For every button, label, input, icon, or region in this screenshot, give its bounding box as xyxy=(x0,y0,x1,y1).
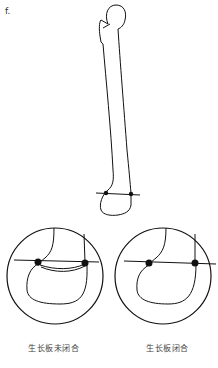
growth-plate-line xyxy=(96,193,140,195)
caption-open-growth-plate: 生长板未闭合 xyxy=(28,342,79,353)
caption-closed-growth-plate: 生长板闭合 xyxy=(146,342,189,353)
inset-open-growth-plate xyxy=(7,228,103,324)
marker-dot xyxy=(104,191,108,195)
femur-outline xyxy=(99,5,131,215)
marker-dot xyxy=(129,192,133,196)
inset-closed-growth-plate xyxy=(115,228,216,324)
femur-diagram xyxy=(0,0,218,368)
